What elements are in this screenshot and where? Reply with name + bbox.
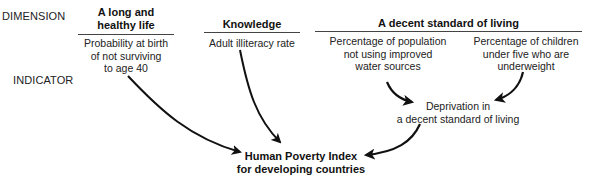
arrow-illiteracy-to-hpi (240, 50, 280, 142)
arrow-survival-to-hpi (128, 76, 240, 152)
flow-arrows (0, 0, 591, 184)
arrow-underweight-to-deprivation (496, 72, 523, 100)
arrow-deprivation-to-hpi (366, 124, 420, 155)
arrow-water-to-deprivation (387, 82, 412, 102)
